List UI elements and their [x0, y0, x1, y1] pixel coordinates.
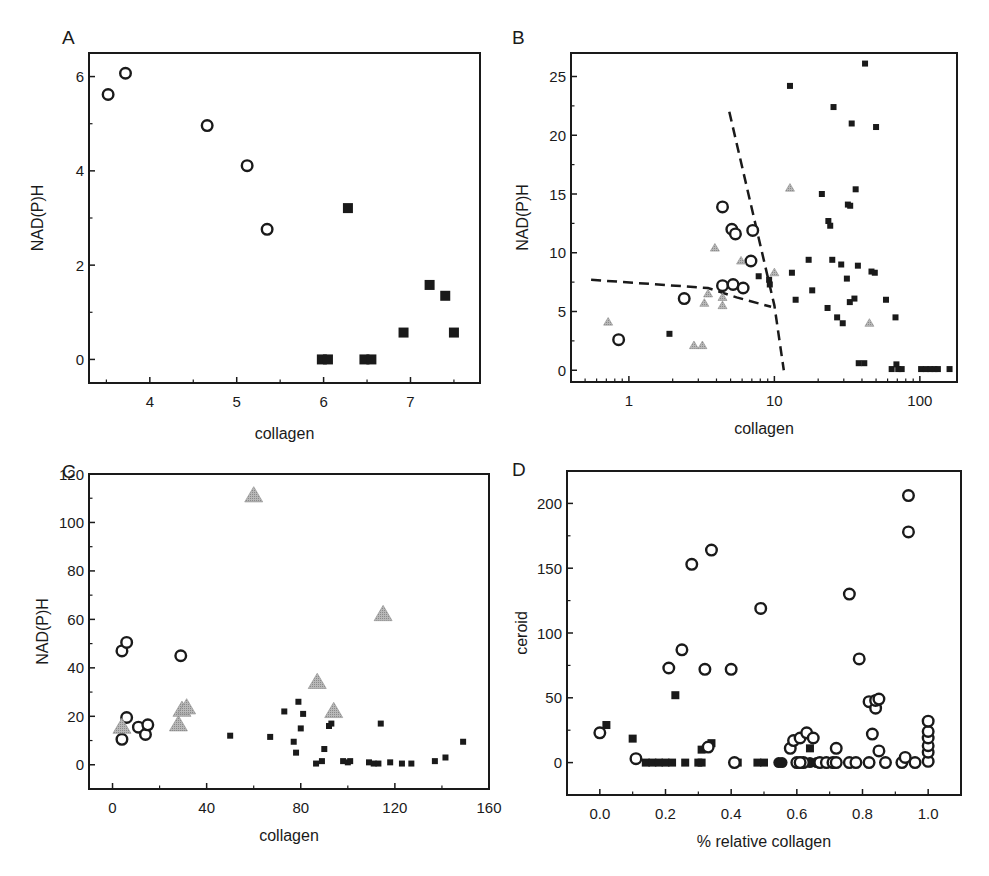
data-point [408, 761, 414, 767]
data-point [947, 366, 953, 372]
data-point [856, 360, 862, 366]
data-point [706, 545, 717, 556]
data-point [698, 341, 707, 349]
data-point [323, 354, 333, 364]
data-point [698, 759, 706, 767]
data-point [880, 757, 891, 768]
data-point [319, 758, 325, 764]
data-point [829, 257, 835, 263]
data-point [808, 733, 819, 744]
data-point [851, 296, 857, 302]
dashed-boundary-line [729, 112, 784, 371]
data-point [117, 734, 128, 745]
data-point [825, 305, 831, 311]
data-point [854, 654, 865, 665]
data-point [806, 257, 812, 263]
data-point [700, 299, 709, 307]
data-point [864, 757, 875, 768]
data-point [831, 104, 837, 110]
y-tick-label: 100 [59, 514, 84, 531]
panel-d: D0.00.20.40.60.81.0% relative collagen05… [512, 459, 961, 850]
data-point [460, 739, 466, 745]
data-point [883, 297, 889, 303]
plot-frame [89, 53, 480, 383]
plot-frame [89, 474, 489, 789]
data-point [663, 663, 674, 674]
x-axis: 4567collagen [106, 377, 454, 442]
data-point [668, 759, 676, 767]
data-point [103, 89, 114, 100]
data-point [120, 68, 131, 79]
data-point [308, 673, 326, 688]
scatter-figure: A4567collagen0246NAD(P)H B110100collagen… [0, 0, 989, 876]
data-point [903, 490, 914, 501]
data-point [819, 191, 825, 197]
y-tick-label: 10 [549, 244, 566, 261]
data-point [806, 744, 814, 752]
y-axis: 0246NAD(P)H [29, 68, 95, 368]
data-point [313, 761, 319, 767]
data-point [700, 664, 711, 675]
panel-letter-b: B [512, 27, 525, 48]
x-axis: 0.00.20.40.60.81.0% relative collagen [589, 789, 938, 850]
y-tick-label: 0 [76, 351, 84, 368]
y-tick-label: 50 [545, 689, 562, 706]
y-tick-label: 25 [549, 68, 566, 85]
data-point [704, 289, 713, 297]
data-point [867, 729, 878, 740]
x-tick-label: 160 [476, 799, 501, 816]
data-point [862, 61, 868, 67]
x-tick-label: 4 [146, 393, 154, 410]
data-point [293, 750, 299, 756]
series-filled-squares [227, 699, 466, 767]
y-axis-label: NAD(P)H [29, 185, 46, 252]
data-point [143, 719, 154, 730]
data-point [935, 366, 941, 372]
data-point [831, 757, 842, 768]
data-point [703, 742, 714, 753]
data-point [847, 203, 853, 209]
x-tick-label: 0.0 [589, 805, 610, 822]
x-tick-label: 1 [625, 392, 633, 409]
x-tick-label: 7 [406, 393, 414, 410]
data-point [910, 757, 921, 768]
data-point [267, 734, 273, 740]
y-tick-label: 200 [537, 495, 562, 512]
data-point [767, 281, 773, 287]
data-point [851, 757, 862, 768]
series-gray-triangles [113, 487, 392, 734]
data-point [903, 527, 914, 538]
panel-letter-d: D [512, 459, 526, 480]
data-point [679, 293, 690, 304]
data-point [245, 487, 263, 502]
data-point [710, 243, 719, 251]
data-point [595, 727, 606, 738]
data-point [202, 120, 213, 131]
panel-c: C04080120160collagen020406080100120NAD(P… [34, 461, 502, 844]
data-point [375, 761, 381, 767]
data-point [399, 761, 405, 767]
data-point [366, 354, 376, 364]
series-gray-triangles [604, 184, 874, 349]
data-point [834, 314, 840, 320]
data-point [760, 759, 768, 767]
x-axis-label: collagen [255, 425, 315, 442]
y-tick-label: 0 [76, 756, 84, 773]
series-open-circles [613, 202, 758, 345]
x-tick-label: 10 [766, 392, 783, 409]
data-point [613, 334, 624, 345]
data-point [730, 229, 741, 240]
series-filled-squares [317, 203, 459, 364]
data-point [604, 317, 613, 325]
data-point [399, 328, 409, 338]
data-point [899, 366, 905, 372]
data-point [874, 694, 885, 705]
figure: A4567collagen0246NAD(P)H B110100collagen… [0, 0, 989, 876]
data-point [795, 757, 806, 768]
data-point [425, 280, 435, 290]
data-point [844, 589, 855, 600]
y-tick-label: 20 [549, 127, 566, 144]
x-tick-label: 0 [108, 799, 116, 816]
data-point [295, 699, 301, 705]
y-tick-label: 100 [537, 625, 562, 642]
